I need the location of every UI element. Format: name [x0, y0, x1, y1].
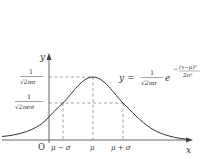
svg-text:1: 1	[27, 93, 31, 101]
svg-text:y =: y =	[118, 73, 135, 83]
dashed-guides	[49, 77, 125, 140]
y-axis-label: y	[39, 52, 46, 62]
tick-mu-plus-sigma: μ + σ	[111, 144, 131, 152]
x-axis-label: x	[186, 145, 191, 155]
svg-text:√2πeσ: √2πeσ	[15, 103, 35, 110]
y-tick-peak: 1 √2πσ	[20, 68, 43, 85]
tick-mu-minus-sigma: μ − σ	[51, 144, 71, 152]
svg-text:√2πσ: √2πσ	[20, 78, 37, 85]
svg-text:1: 1	[150, 69, 154, 77]
tick-mu: μ	[90, 144, 95, 152]
density-formula: y = 1 √2πσ e − (x−μ)² 2σ²	[118, 64, 200, 86]
svg-text:(x−μ)²: (x−μ)²	[179, 64, 197, 71]
y-axis-arrow-icon	[47, 53, 52, 60]
svg-text:e: e	[165, 73, 170, 83]
svg-text:−: −	[173, 65, 178, 72]
normal-distribution-chart: y x O μ − σ μ μ + σ 1 √2πσ 1 √2πeσ y = 1…	[0, 0, 219, 159]
origin-label: O	[38, 142, 45, 152]
y-tick-inflection: 1 √2πeσ	[15, 93, 43, 110]
svg-text:2σ²: 2σ²	[182, 72, 192, 78]
svg-text:1: 1	[29, 68, 33, 76]
x-axis-arrow-icon	[186, 138, 193, 143]
svg-text:√2πσ: √2πσ	[141, 79, 158, 86]
